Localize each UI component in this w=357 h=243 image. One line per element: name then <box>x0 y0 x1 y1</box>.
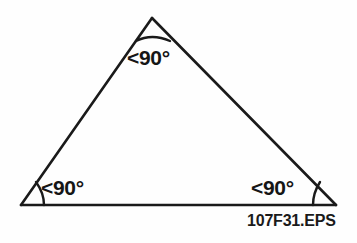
angle-label-bottom-right: <90° <box>251 177 294 198</box>
angle-label-apex: <90° <box>127 47 170 68</box>
figure-caption: 107F31.EPS <box>247 213 336 229</box>
triangle-diagram-svg <box>0 0 357 243</box>
angle-label-bottom-left: <90° <box>41 177 84 198</box>
triangle-figure: <90° <90° <90° 107F31.EPS <box>0 0 357 243</box>
triangle-side-right <box>152 18 336 205</box>
angle-arc-apex-icon <box>136 37 170 41</box>
